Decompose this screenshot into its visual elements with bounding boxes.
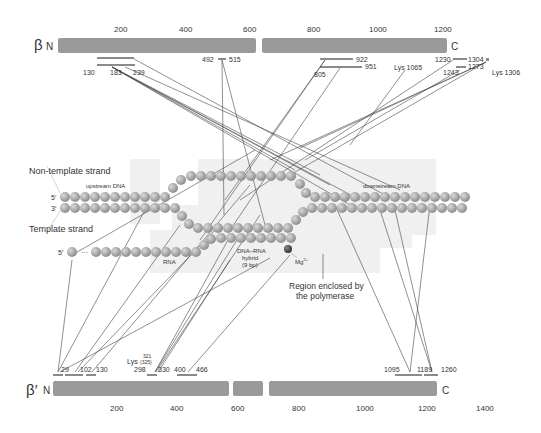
beta-prime-symbol: β′	[26, 381, 38, 398]
svg-text:Lys: Lys	[127, 358, 138, 366]
svg-text:805: 805	[314, 71, 326, 78]
svg-text:1000: 1000	[369, 25, 387, 34]
mg-ion	[284, 245, 292, 253]
svg-text:Lys 1065: Lys 1065	[394, 64, 422, 72]
beta-prime-region-labels: 29 102 130 Lys 321 (325) 298 330 400 466…	[61, 353, 457, 373]
svg-text:130: 130	[83, 69, 95, 76]
rnap-crosslink-diagram: β N C 200 400 600 800 1000 1200 130 183 …	[0, 0, 541, 433]
svg-text:1000: 1000	[356, 404, 374, 413]
beta-axis-ticks: 200 400 600 800 1000 1200	[114, 25, 452, 34]
svg-text:800: 800	[292, 404, 306, 413]
beta-region-bars	[97, 57, 489, 68]
svg-text:1200: 1200	[418, 404, 436, 413]
beta-subunit-bar	[58, 38, 447, 53]
hybrid-label-2: hybrid	[242, 255, 258, 261]
svg-text:102: 102	[80, 366, 92, 373]
beta-prime-axis-ticks: 200 400 600 800 1000 1200 1400	[110, 404, 494, 413]
svg-text:200: 200	[114, 25, 128, 34]
svg-text:1273: 1273	[468, 63, 484, 70]
svg-text:400: 400	[174, 366, 186, 373]
svg-text:239: 239	[133, 69, 145, 76]
svg-text:600: 600	[243, 25, 257, 34]
svg-text:200: 200	[110, 404, 124, 413]
three-prime-top: 3′	[51, 205, 57, 212]
svg-text:400: 400	[179, 25, 193, 34]
region-label-1: Region enclosed by	[289, 281, 364, 291]
beta-prime-n-label: N	[43, 385, 50, 396]
beta-prime-c-label: C	[442, 385, 449, 396]
rna-ellipsis: ···	[81, 249, 88, 256]
beta-n-label: N	[46, 41, 53, 52]
region-label-2: the polymerase	[296, 291, 354, 301]
svg-text:1304: 1304	[468, 56, 484, 63]
beta-c-label: C	[451, 41, 458, 52]
hybrid-label-3: (9 bp)	[242, 262, 258, 268]
svg-text:1400: 1400	[476, 404, 494, 413]
svg-text:1230: 1230	[435, 56, 451, 63]
svg-text:492: 492	[202, 56, 214, 63]
svg-text:466: 466	[196, 366, 208, 373]
svg-text:600: 600	[231, 404, 245, 413]
hybrid-label-1: DNA–RNA	[237, 248, 266, 254]
svg-text:1260: 1260	[441, 366, 457, 373]
svg-text:1095: 1095	[384, 366, 400, 373]
svg-text:(325): (325)	[140, 359, 152, 365]
svg-text:1200: 1200	[434, 25, 452, 34]
svg-text:1189: 1189	[417, 366, 432, 373]
svg-text:951: 951	[365, 63, 377, 70]
svg-text:Lys 1306: Lys 1306	[492, 69, 520, 77]
beta-prime-subunit-bar	[53, 381, 437, 396]
template-strand-label: Template strand	[29, 224, 93, 234]
rna-label: RNA	[163, 259, 176, 265]
downstream-dna-label: downstream DNA	[363, 183, 410, 189]
svg-text:1243: 1243	[443, 69, 459, 76]
beta-prime-region-bars	[53, 374, 438, 376]
svg-text:400: 400	[170, 404, 184, 413]
non-template-strand-label: Non-template strand	[29, 166, 111, 176]
svg-text:330: 330	[158, 366, 170, 373]
svg-text:29: 29	[61, 366, 69, 373]
svg-text:800: 800	[307, 25, 321, 34]
five-prime-rna: 5′	[58, 249, 64, 256]
five-prime-top: 5′	[51, 194, 57, 201]
svg-text:298: 298	[134, 366, 146, 373]
svg-text:922: 922	[356, 56, 368, 63]
svg-text:515: 515	[229, 56, 241, 63]
svg-text:130: 130	[96, 366, 108, 373]
upstream-dna-label: upstream DNA	[86, 183, 125, 189]
beta-symbol: β	[34, 36, 43, 53]
svg-text:183: 183	[110, 69, 122, 76]
